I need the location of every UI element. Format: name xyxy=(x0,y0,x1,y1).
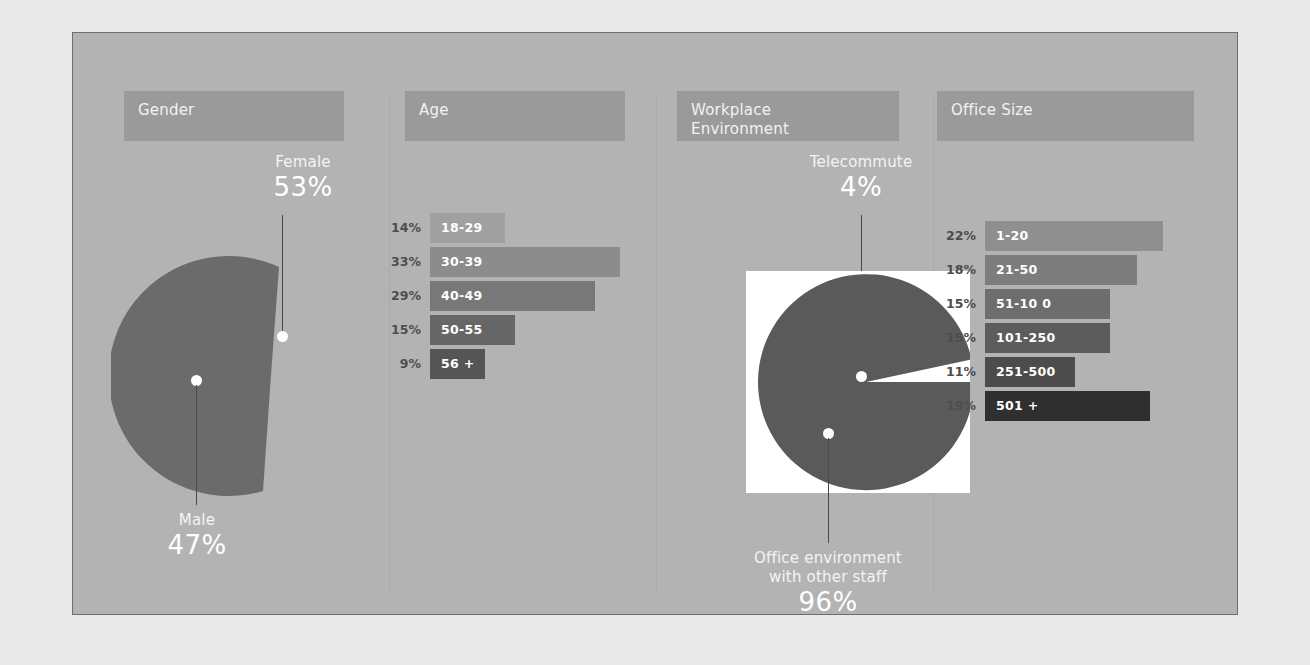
office-size-bar-percent-4: 11% xyxy=(946,357,976,387)
office-size-bar-label-1: 21-50 xyxy=(996,255,1037,285)
divider-gender-age xyxy=(389,93,390,593)
office-size-bar-label-4: 251-500 xyxy=(996,357,1055,387)
workplace-telecommute-label: Telecommute xyxy=(766,153,956,172)
gender-female-label: Female xyxy=(223,153,383,172)
office-size-bar-percent-5: 19% xyxy=(946,391,976,421)
age-bar-percent-1: 33% xyxy=(391,247,421,277)
office-size-bar-label-2: 51-10 0 xyxy=(996,289,1051,319)
age-chart: 14% 18-29 33% 30-39 29% 40-49 15% 50-55 xyxy=(430,213,650,393)
workplace-chart: Telecommute 4% Office environment with o… xyxy=(656,33,933,616)
office-size-bar-percent-2: 15% xyxy=(946,289,976,319)
age-bar-label-3: 50-55 xyxy=(441,315,482,345)
column-header-age: Age xyxy=(405,91,625,141)
gender-pie-svg xyxy=(111,255,321,505)
office-size-bar-percent-0: 22% xyxy=(946,221,976,251)
gender-male-annotation: Male 47% xyxy=(117,511,277,560)
office-size-bar-percent-3: 15% xyxy=(946,323,976,353)
workplace-pie-svg xyxy=(746,271,970,493)
workplace-telecommute-annotation: Telecommute 4% xyxy=(766,153,956,202)
column-header-office-size-label: Office Size xyxy=(951,101,1180,120)
infographic-panel: Gender Age Workplace Environment Office … xyxy=(72,32,1238,615)
workplace-office-label: Office environment with other staff xyxy=(733,549,923,587)
age-bar-percent-4: 9% xyxy=(400,349,421,379)
office-size-chart: 22% 1-20 18% 21-50 15% 51-10 0 15% 101-2… xyxy=(985,221,1225,436)
age-bar-label-0: 18-29 xyxy=(441,213,482,243)
gender-chart: Female 53% Male 47% xyxy=(73,33,389,616)
column-header-office-size: Office Size xyxy=(937,91,1194,141)
age-bar-label-2: 40-49 xyxy=(441,281,482,311)
column-header-age-label: Age xyxy=(419,101,611,120)
age-bar-percent-0: 14% xyxy=(391,213,421,243)
age-bar-percent-3: 15% xyxy=(391,315,421,345)
office-size-bar-label-5: 501 + xyxy=(996,391,1038,421)
age-bar-label-4: 56 + xyxy=(441,349,474,379)
gender-female-annotation: Female 53% xyxy=(223,153,383,202)
office-size-bar-label-3: 101-250 xyxy=(996,323,1055,353)
workplace-office-value: 96% xyxy=(733,587,923,617)
workplace-office-annotation: Office environment with other staff 96% xyxy=(733,549,923,617)
age-bar-percent-2: 29% xyxy=(391,281,421,311)
workplace-telecommute-dot xyxy=(856,371,867,382)
gender-male-connector xyxy=(196,385,197,505)
office-size-bar-label-0: 1-20 xyxy=(996,221,1028,251)
office-size-bar-percent-1: 18% xyxy=(946,255,976,285)
workplace-office-connector xyxy=(828,438,829,543)
gender-male-label: Male xyxy=(117,511,277,530)
age-bar-label-1: 30-39 xyxy=(441,247,482,277)
infographic-canvas: Gender Age Workplace Environment Office … xyxy=(0,0,1310,665)
workplace-telecommute-value: 4% xyxy=(766,172,956,202)
gender-male-value: 47% xyxy=(117,530,277,560)
gender-female-value: 53% xyxy=(223,172,383,202)
